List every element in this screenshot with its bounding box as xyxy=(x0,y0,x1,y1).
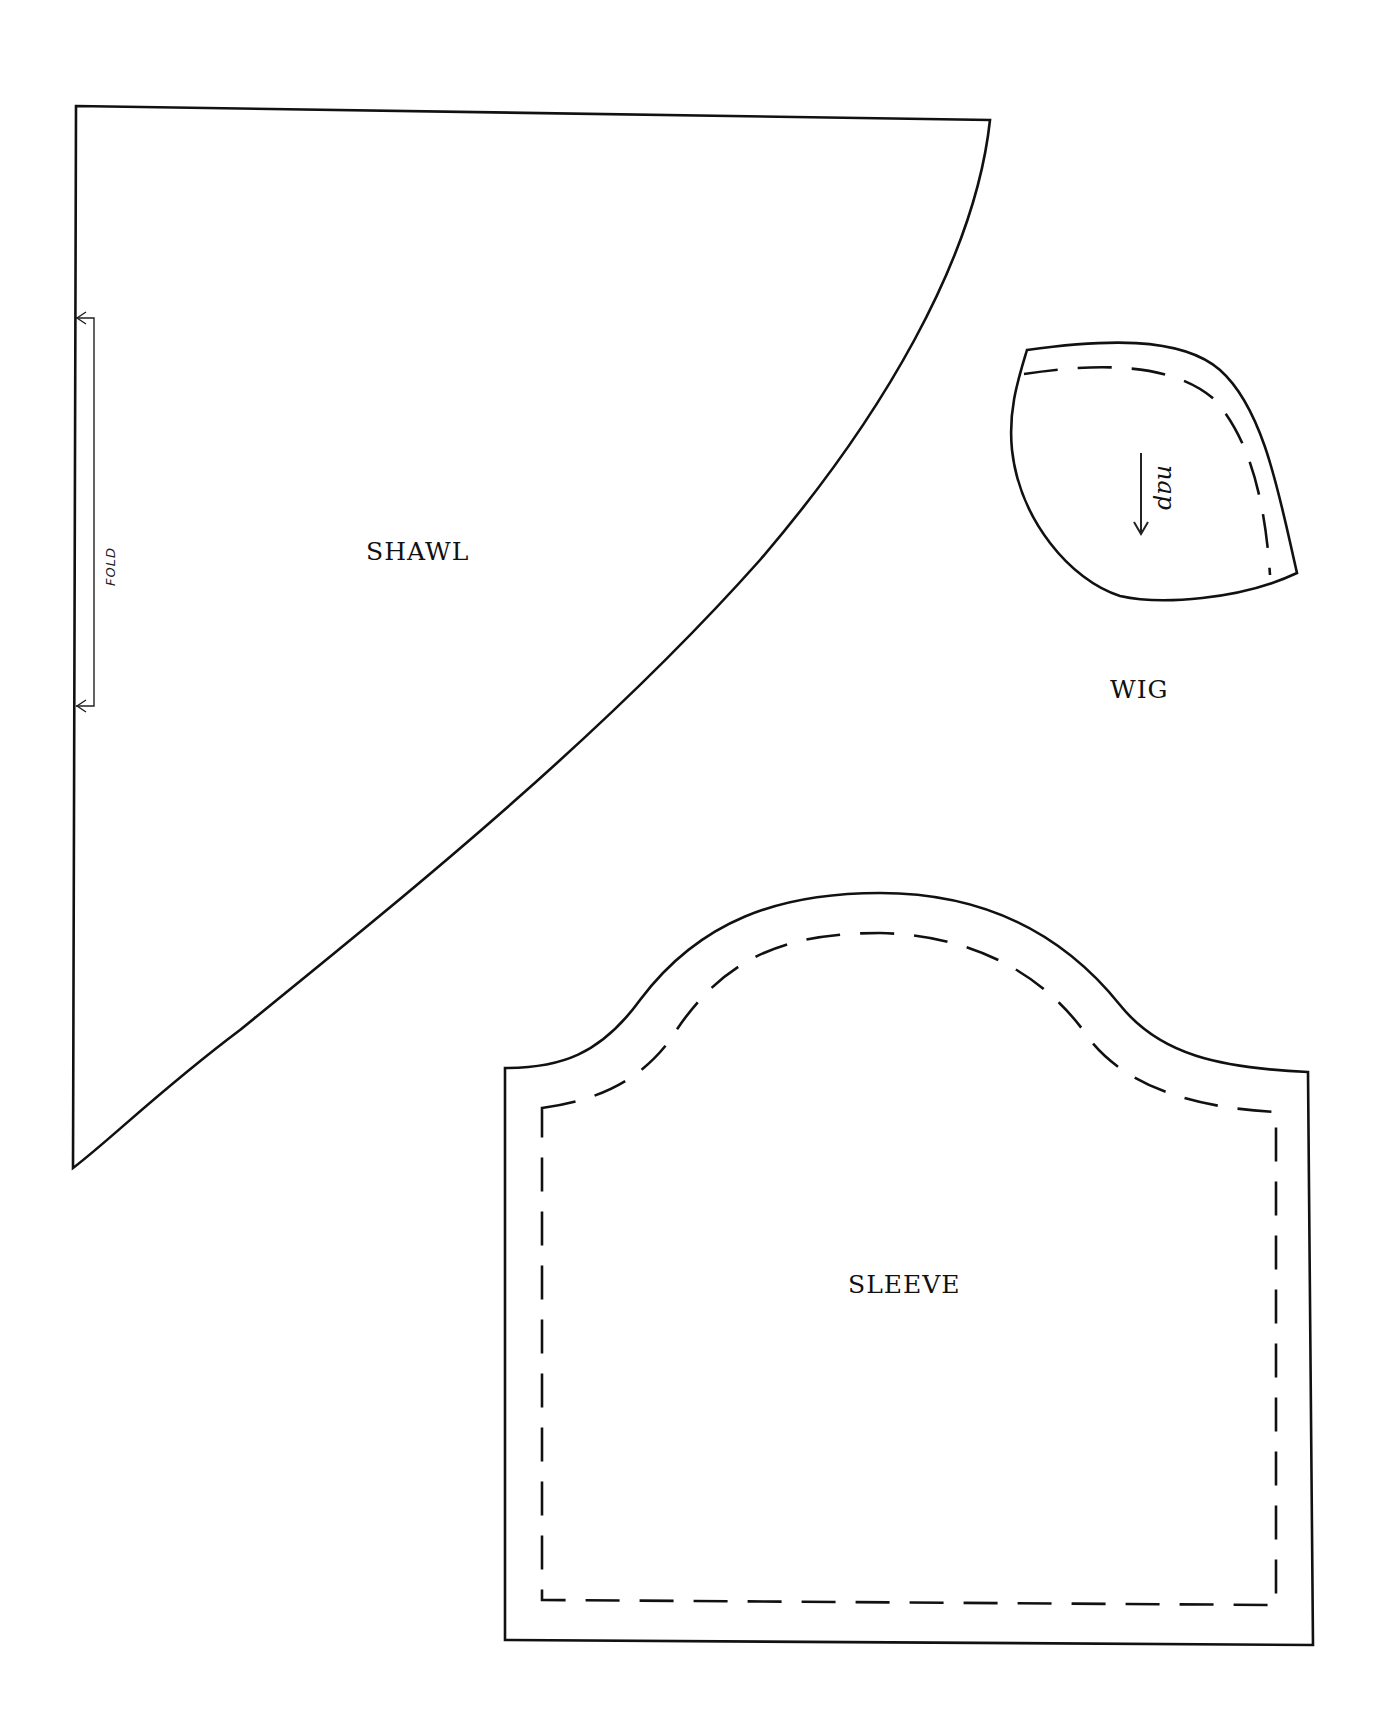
wig-seam-line xyxy=(1024,367,1270,575)
sleeve-piece xyxy=(505,893,1313,1645)
shawl-outline xyxy=(73,106,990,1168)
sleeve-outline xyxy=(505,893,1313,1645)
shawl-piece xyxy=(73,106,990,1168)
wig-label: WIG xyxy=(1110,675,1169,704)
nap-label: nap xyxy=(1152,465,1180,510)
fold-bracket-icon xyxy=(76,312,94,712)
shawl-label: SHAWL xyxy=(366,537,469,566)
fold-label: FOLD xyxy=(103,547,118,586)
arrow-down-icon xyxy=(1134,453,1148,534)
sleeve-label: SLEEVE xyxy=(848,1270,961,1299)
sleeve-seam-line xyxy=(542,933,1276,1605)
pattern-sheet xyxy=(0,0,1391,1718)
